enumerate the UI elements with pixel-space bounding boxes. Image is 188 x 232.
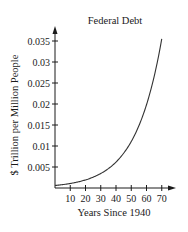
y-tick-label: 0.01	[33, 141, 51, 152]
y-tick-label: 0.02	[33, 99, 51, 110]
x-tick-label: 20	[81, 193, 91, 204]
x-tick-label: 60	[142, 193, 152, 204]
y-axis-arrow-icon	[53, 26, 58, 34]
x-axis-arrow-icon	[168, 186, 176, 191]
y-tick-label: 0.015	[28, 120, 51, 131]
x-tick-label: 30	[96, 193, 106, 204]
y-tick-label: 0.025	[28, 78, 51, 89]
y-tick-label: 0.035	[28, 36, 51, 47]
y-axis	[53, 26, 58, 188]
federal-debt-chart: Federal Debt 0.0050.010.0150.020.0250.03…	[0, 0, 188, 232]
x-tick-label: 50	[126, 193, 136, 204]
y-tick-label: 0.03	[33, 57, 51, 68]
y-ticks: 0.0050.010.0150.020.0250.030.035	[28, 36, 59, 173]
data-curve	[55, 39, 162, 186]
x-tick-label: 10	[65, 193, 75, 204]
y-axis-label: $ Trillion per Million People	[9, 54, 20, 175]
x-tick-label: 40	[111, 193, 121, 204]
x-tick-label: 70	[157, 193, 167, 204]
chart-title: Federal Debt	[88, 15, 143, 26]
x-axis-label: Years Since 1940	[77, 207, 150, 218]
y-tick-label: 0.005	[28, 162, 51, 173]
